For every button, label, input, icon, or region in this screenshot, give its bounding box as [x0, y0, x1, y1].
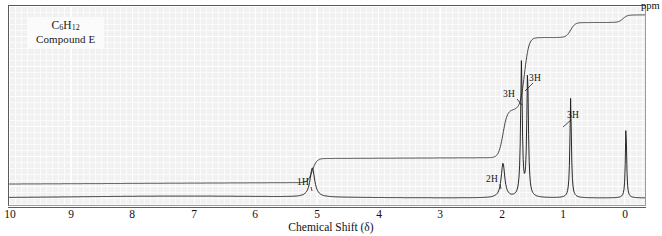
spectrum-trace — [9, 61, 646, 198]
x-tick-3: 3 — [429, 208, 451, 220]
integration-label-2: 3H — [503, 89, 515, 99]
spectrum-curve — [9, 61, 646, 198]
leader-line-1 — [500, 184, 501, 189]
leader-line-3 — [525, 83, 533, 91]
molecular-formula: C6H12 — [36, 19, 95, 33]
integration-label-3: 3H — [529, 73, 541, 83]
compound-name: Compound E — [36, 33, 95, 46]
x-tick-0: 0 — [614, 208, 636, 220]
x-tick-8: 8 — [121, 208, 143, 220]
x-tick-9: 9 — [60, 208, 82, 220]
nmr-spectrum-figure: C6H12 Compound E 1H2H3H3H3H 109876543210… — [0, 0, 662, 236]
compound-label-box: C6H12 Compound E — [27, 17, 104, 49]
leader-line-0 — [311, 187, 312, 191]
x-tick-1: 1 — [552, 208, 574, 220]
x-tick-10: 10 — [0, 208, 21, 220]
spectrum-traces — [9, 6, 646, 206]
ppm-unit-label: ppm — [641, 0, 660, 11]
x-tick-5: 5 — [306, 208, 328, 220]
integration-label-4: 3H — [567, 110, 579, 120]
integration-label-1: 2H — [486, 174, 498, 184]
x-tick-6: 6 — [244, 208, 266, 220]
x-tick-4: 4 — [368, 208, 390, 220]
annotation-leader-lines — [311, 83, 571, 191]
formula-h-subscript: 12 — [72, 23, 80, 32]
integral-trace — [9, 15, 646, 184]
x-tick-7: 7 — [183, 208, 205, 220]
integration-curve — [9, 15, 646, 184]
x-tick-2: 2 — [491, 208, 513, 220]
formula-h: H — [63, 19, 71, 31]
x-axis-title: Chemical Shift (δ) — [0, 221, 662, 233]
integration-label-0: 1H — [297, 177, 309, 187]
